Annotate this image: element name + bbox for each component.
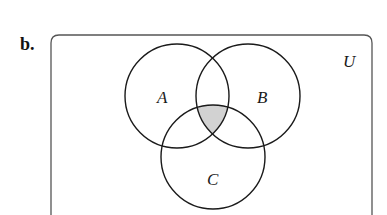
set-a-label: A — [156, 88, 168, 107]
venn-diagram: b. U A B C — [0, 0, 387, 215]
set-b-label: B — [257, 88, 268, 107]
universe-label: U — [343, 52, 357, 71]
set-c-label: C — [207, 170, 219, 189]
set-a-circle — [125, 44, 229, 148]
set-b-circle — [196, 44, 300, 148]
part-label: b. — [20, 34, 35, 54]
